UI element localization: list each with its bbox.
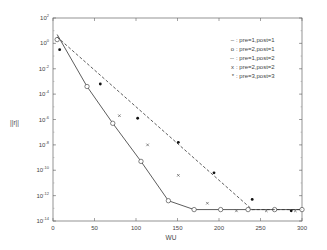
x-tick-label: 0 <box>51 225 55 231</box>
legend-label: : pre=3,post=3 <box>236 73 275 79</box>
legend-symbol: o <box>231 46 235 52</box>
marker-circle <box>218 207 222 211</box>
x-axis-label: WU <box>166 234 177 241</box>
marker-circle <box>246 207 250 211</box>
x-tick-label: 200 <box>214 225 225 231</box>
legend: –: pre=1,post=1o: pre=2,post=1--: pre=1,… <box>230 37 275 79</box>
y-tick-label: 10-10 <box>37 165 50 173</box>
y-tick-label: 102 <box>40 13 50 21</box>
chart: 05010015020025030010210010-210-410-610-8… <box>0 0 327 250</box>
x-tick-label: 100 <box>131 225 142 231</box>
marker-x <box>206 202 209 205</box>
series-line-dashed <box>57 37 302 210</box>
legend-label: : pre=1,post=2 <box>236 55 275 61</box>
marker-circle <box>166 199 170 203</box>
legend-label: : pre=1,post=1 <box>236 37 275 43</box>
y-tick-label: 10-12 <box>37 191 50 199</box>
y-tick-label: 100 <box>40 38 50 46</box>
marker-star <box>290 209 293 212</box>
y-axis-label: ||r|| <box>10 119 19 127</box>
marker-star <box>177 141 180 144</box>
legend-symbol: – <box>231 37 235 43</box>
x-tick-label: 150 <box>172 225 183 231</box>
x-tick-label: 300 <box>297 225 308 231</box>
marker-x <box>177 174 180 177</box>
legend-symbol: x <box>231 64 234 70</box>
x-tick-label: 50 <box>91 225 98 231</box>
marker-star <box>213 171 216 174</box>
legend-label: : pre=2,post=2 <box>236 64 275 70</box>
marker-x <box>118 114 121 117</box>
data-series <box>55 34 304 212</box>
marker-circle <box>111 121 115 125</box>
y-tick-label: 10-2 <box>39 64 50 72</box>
legend-symbol: -- <box>230 55 234 61</box>
marker-circle <box>139 159 143 163</box>
legend-label: : pre=2,post=1 <box>236 46 275 52</box>
marker-star <box>58 48 61 51</box>
marker-star <box>99 83 102 86</box>
y-tick-label: 10-8 <box>39 140 50 148</box>
marker-star <box>136 117 139 120</box>
marker-circle <box>85 84 89 88</box>
marker-star <box>251 198 254 201</box>
y-tick-label: 10-14 <box>37 216 50 224</box>
y-tick-label: 10-6 <box>39 115 50 123</box>
legend-symbol: * <box>232 73 235 79</box>
marker-circle <box>192 207 196 211</box>
x-tick-label: 250 <box>255 225 266 231</box>
marker-x <box>146 144 149 147</box>
y-tick-label: 10-4 <box>39 89 50 97</box>
